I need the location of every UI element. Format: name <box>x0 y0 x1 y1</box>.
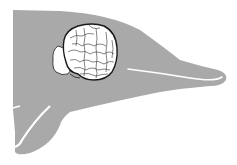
dolphin-illustration <box>0 0 237 165</box>
illustration-stage: Dolphin head silhouette with brain illus… <box>0 0 237 165</box>
dolphin-silhouette <box>13 10 226 154</box>
